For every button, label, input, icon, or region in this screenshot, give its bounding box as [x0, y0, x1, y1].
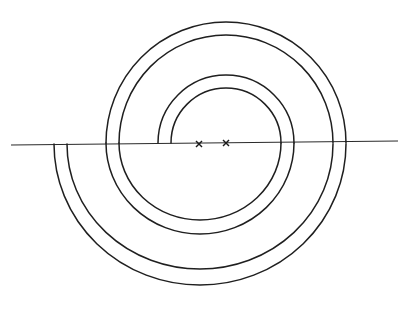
center-x-mark-icon	[196, 141, 202, 147]
arc-bottom-outer-2	[54, 144, 346, 285]
spiral-diagram	[0, 0, 408, 309]
arc-top-outer-1	[119, 35, 333, 143]
arc-top-inner-1	[171, 88, 281, 143]
arc-top-inner-2	[158, 75, 294, 143]
diagram-svg	[0, 0, 408, 309]
arc-bottom-outer-1	[67, 144, 333, 269]
arc-top-outer-2	[106, 22, 346, 143]
arc-bottom-middle-1	[119, 143, 281, 220]
semicircle-arcs	[54, 22, 346, 285]
horizontal-axis-line	[11, 141, 398, 145]
